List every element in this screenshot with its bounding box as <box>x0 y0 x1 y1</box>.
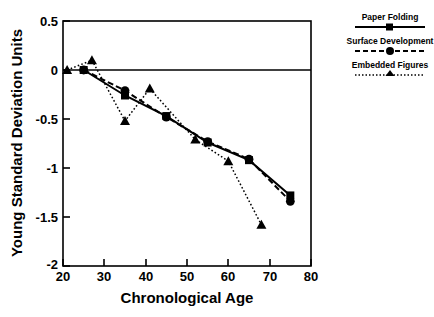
y-tick-label: -1.5 <box>36 210 58 225</box>
chart-legend: Paper Folding Surface Development Embedd… <box>347 12 434 76</box>
triangle-marker <box>386 70 395 76</box>
x-tick-label: 60 <box>221 269 235 284</box>
x-tick-label: 70 <box>263 269 277 284</box>
x-axis-title: Chronological Age <box>121 289 254 306</box>
legend-label-embedded-figures: Embedded Figures <box>352 60 429 70</box>
square-marker <box>386 24 393 31</box>
legend-label-surface-development: Surface Development <box>347 36 434 46</box>
legend-label-paper-folding: Paper Folding <box>362 12 419 22</box>
x-tick-label: 20 <box>56 269 70 284</box>
legend-swatch-embedded-figures <box>355 70 425 76</box>
x-tick-label: 40 <box>139 269 153 284</box>
circle-marker <box>386 47 394 55</box>
x-tick-label: 30 <box>97 269 111 284</box>
chart-canvas: 0.5 0 -0.5 -1 -1.5 -2 20 30 40 50 60 70 … <box>0 0 434 317</box>
circle-marker <box>79 66 88 75</box>
x-tick-labels: 20 30 40 50 60 70 80 <box>56 269 318 284</box>
y-tick-label: 0 <box>51 63 58 78</box>
circle-marker <box>203 137 212 146</box>
circle-marker <box>162 113 171 122</box>
y-tick-labels: 0.5 0 -0.5 -1 -1.5 -2 <box>36 14 58 272</box>
circle-marker <box>245 155 254 164</box>
plot-frame <box>63 21 311 266</box>
y-axis-title: Young Standard Deviation Units <box>8 29 25 257</box>
x-tick-label: 80 <box>304 269 318 284</box>
y-tick-label: -0.5 <box>36 112 58 127</box>
circle-marker <box>286 197 295 206</box>
chart-figure: 0.5 0 -0.5 -1 -1.5 -2 20 30 40 50 60 70 … <box>0 0 434 317</box>
y-tick-label: 0.5 <box>40 14 58 29</box>
legend-swatch-surface-development <box>355 47 425 55</box>
y-tick-label: -1 <box>46 161 58 176</box>
legend-swatch-paper-folding <box>355 24 425 31</box>
x-tick-label: 50 <box>180 269 194 284</box>
circle-marker <box>121 86 130 95</box>
